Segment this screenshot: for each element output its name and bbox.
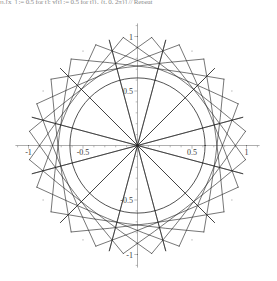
chord-curve	[123, 160, 245, 254]
chord-curve	[51, 212, 204, 232]
y-tick-label: -1	[126, 251, 133, 260]
chord-curve	[37, 45, 96, 187]
chord-curve	[29, 160, 151, 254]
chord-curve	[51, 79, 71, 232]
chord-curve	[51, 59, 71, 212]
parametric-plot-svg: -1-0.50.51-1-0.50.51	[0, 6, 277, 281]
chord-curve	[51, 59, 204, 79]
chord-curve	[37, 187, 179, 246]
chord-curve	[179, 104, 238, 246]
chord-curve	[29, 37, 123, 159]
chord-curve	[96, 45, 238, 104]
x-tick-label: 1	[245, 148, 249, 157]
x-tick-label: -1	[25, 148, 32, 157]
chord-curve	[37, 45, 179, 104]
chord-curve	[204, 59, 224, 212]
chord-curve	[179, 45, 238, 187]
plot-area: -1-0.50.51-1-0.50.51	[0, 6, 277, 281]
y-tick-label: -0.5	[120, 196, 133, 205]
y-tick-label: 1	[129, 33, 133, 42]
x-tick-label: -0.5	[77, 148, 90, 157]
chord-curve	[71, 212, 224, 232]
plot-window: η₁[x_] := 0.5 for t]; y[t] := 0.5 for t]…	[0, 0, 277, 281]
y-tick-label: 0.5	[123, 87, 133, 96]
chord-curve	[152, 131, 246, 253]
chord-curve	[204, 79, 224, 232]
chord-curve	[96, 187, 238, 246]
chord-curve	[37, 104, 96, 246]
chord-curve	[123, 37, 245, 131]
x-tick-label: 0.5	[187, 148, 197, 157]
chord-curve	[71, 59, 224, 79]
chord-curve	[152, 37, 246, 159]
chord-curve	[29, 37, 151, 131]
